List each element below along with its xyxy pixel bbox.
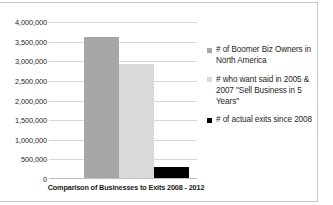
chart-legend: # of Boomer Biz Owners in North America#… bbox=[207, 44, 315, 133]
legend-item-label: # of actual exits since 2008 bbox=[216, 114, 312, 125]
legend-item[interactable]: # of actual exits since 2008 bbox=[207, 114, 315, 125]
y-axis-tick-label: 2,000,000 bbox=[0, 96, 47, 105]
y-axis-tick-label: 2,500,000 bbox=[0, 76, 47, 85]
legend-item-label: # of Boomer Biz Owners in North America bbox=[216, 44, 315, 67]
y-axis-tick-label: 3,500,000 bbox=[0, 37, 47, 46]
legend-item[interactable]: # who want said in 2005 & 2007 "Sell Bus… bbox=[207, 74, 315, 108]
legend-item[interactable]: # of Boomer Biz Owners in North America bbox=[207, 44, 315, 67]
chart-container: 4,000,0003,500,0003,000,0002,500,0002,00… bbox=[0, 0, 333, 205]
x-axis-title: Comparison of Businesses to Exits 2008 -… bbox=[36, 183, 216, 192]
legend-swatch-icon bbox=[207, 48, 212, 53]
bar-series-2 bbox=[119, 64, 154, 178]
gridline bbox=[49, 22, 197, 23]
y-axis-tick-label: 4,000,000 bbox=[0, 18, 47, 27]
y-axis-tick-label: 1,500,000 bbox=[0, 116, 47, 125]
legend-item-label: # who want said in 2005 & 2007 "Sell Bus… bbox=[216, 74, 315, 108]
gridline bbox=[49, 42, 197, 43]
legend-swatch-icon bbox=[207, 118, 212, 123]
axis-baseline bbox=[49, 178, 197, 179]
bar-series-1 bbox=[84, 37, 119, 178]
bar-series-3 bbox=[154, 167, 189, 178]
y-axis: 4,000,0003,500,0003,000,0002,500,0002,00… bbox=[0, 22, 47, 179]
gridline bbox=[49, 61, 197, 62]
plot-area bbox=[49, 22, 197, 179]
y-axis-tick-label: 1,000,000 bbox=[0, 135, 47, 144]
y-axis-tick-label: 3,000,000 bbox=[0, 57, 47, 66]
legend-swatch-icon bbox=[207, 77, 212, 82]
y-axis-tick-label: 500,000 bbox=[0, 155, 47, 164]
